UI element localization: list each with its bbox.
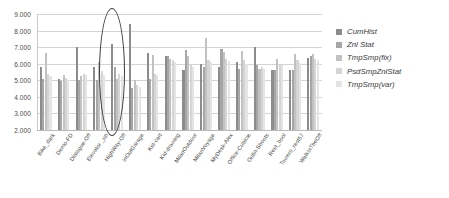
chart-screenshot: 9.0008.0007.0006.0005.0004.0003.0002.000… — [0, 0, 449, 198]
bar — [299, 63, 301, 130]
legend-item[interactable]: TmpSmp(var) — [336, 80, 401, 89]
bar-group — [108, 14, 126, 130]
legend-item[interactable]: Znl Stat — [336, 40, 401, 49]
bar — [156, 75, 158, 130]
bar — [139, 87, 141, 130]
legend-item[interactable]: PsdSmpZnlStat — [336, 67, 401, 76]
y-axis-tick-label: 4.000 — [14, 93, 31, 100]
y-axis-tick-label: 6.000 — [14, 60, 31, 67]
bar-group — [233, 14, 251, 130]
bar — [228, 61, 230, 130]
legend-swatch-icon — [336, 81, 342, 87]
y-axis-tick-label: 8.000 — [14, 27, 31, 34]
x-axis-tick-label: Kid-cart — [146, 132, 162, 152]
bar — [317, 60, 319, 130]
bar — [245, 64, 247, 130]
bar — [121, 76, 123, 130]
bar — [174, 62, 176, 130]
y-axis-tick-label: 3.000 — [14, 110, 31, 117]
bar-group — [251, 14, 269, 130]
bar — [263, 69, 265, 130]
bar — [85, 75, 87, 130]
legend-swatch-icon — [336, 55, 342, 61]
bar-group — [286, 14, 304, 130]
bar-group — [37, 14, 55, 130]
bar-group — [126, 14, 144, 130]
legend-label: CumHist — [347, 27, 377, 36]
bar-group — [197, 14, 215, 130]
legend-item[interactable]: TmpSmp(fix) — [336, 53, 401, 62]
y-axis-tick-label: 9.000 — [14, 11, 31, 18]
x-axis-tick-label: Demo-FD — [54, 132, 73, 156]
y-axis-tick-label: 2.000 — [14, 127, 31, 134]
bar — [67, 80, 69, 130]
x-axis-tick-label: Bike_dark — [36, 132, 56, 157]
legend-swatch-icon — [336, 42, 342, 48]
bar-group — [90, 14, 108, 130]
x-axis: Bike_darkDemo-FDDialogue-OffElevator _up… — [37, 132, 322, 196]
bar-group — [180, 14, 198, 130]
x-axis-baseline — [37, 130, 322, 131]
legend-label: Znl Stat — [347, 40, 374, 49]
y-axis: 9.0008.0007.0006.0005.0004.0003.0002.000 — [0, 14, 34, 130]
bar — [192, 67, 194, 130]
bar-group — [55, 14, 73, 130]
bars-layer — [37, 14, 322, 130]
legend-label: TmpSmp(fix) — [347, 53, 392, 62]
legend-swatch-icon — [336, 68, 342, 74]
bar — [281, 65, 283, 130]
bar — [210, 62, 212, 130]
y-axis-tick-label: 7.000 — [14, 44, 31, 51]
bar-group — [162, 14, 180, 130]
legend: CumHistZnl StatTmpSmp(fix)PsdSmpZnlStatT… — [336, 27, 401, 89]
legend-item[interactable]: CumHist — [336, 27, 401, 36]
legend-label: PsdSmpZnlStat — [347, 67, 401, 76]
legend-swatch-icon — [336, 29, 342, 35]
bar-group — [269, 14, 287, 130]
bar-group — [73, 14, 91, 130]
bar — [103, 75, 105, 130]
bar-group — [304, 14, 322, 130]
y-axis-tick-label: 5.000 — [14, 77, 31, 84]
bar — [49, 76, 51, 130]
bar-group — [215, 14, 233, 130]
legend-label: TmpSmp(var) — [347, 80, 395, 89]
bar-group — [144, 14, 162, 130]
